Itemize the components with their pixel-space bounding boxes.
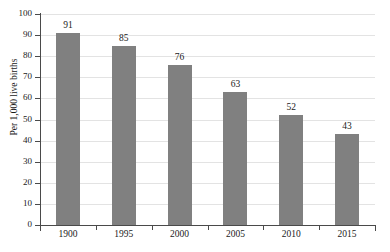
y-axis-tick-label: 10 [2, 199, 32, 208]
x-axis-tick [208, 225, 209, 230]
y-axis-tick-label: 20 [2, 178, 32, 187]
gridline [40, 183, 375, 184]
y-axis-tick [35, 77, 40, 78]
y-axis-tick-label: 40 [2, 136, 32, 145]
x-axis-tick [96, 225, 97, 230]
gridline [40, 162, 375, 163]
bar [168, 65, 192, 225]
x-axis-tick [375, 225, 376, 231]
bar [335, 134, 359, 225]
y-axis-tick [35, 204, 40, 205]
x-axis-tick [152, 225, 153, 230]
y-axis-line [40, 13, 41, 226]
x-axis-tick-label: 2015 [322, 229, 372, 240]
y-axis-tick-label: 0 [2, 220, 32, 229]
x-axis-tick [263, 225, 264, 230]
gridline [40, 204, 375, 205]
y-axis-tick-label: 90 [2, 30, 32, 39]
bar [279, 115, 303, 225]
y-axis-tick-label: 100 [2, 9, 32, 18]
bar-value-label: 63 [215, 79, 255, 89]
x-axis-tick-label: 1900 [43, 229, 93, 240]
gridline [40, 141, 375, 142]
bar-value-label: 91 [48, 20, 88, 30]
bar [112, 46, 136, 225]
x-axis-tick [319, 225, 320, 230]
y-axis-tick-label: 30 [2, 157, 32, 166]
bar-chart: Per 1,000 live births 918576635243 01020… [0, 0, 390, 252]
x-axis-tick-label: 1995 [99, 229, 149, 240]
plot-area: 918576635243 [40, 14, 375, 225]
bar [56, 33, 80, 225]
x-axis-tick-label: 2005 [210, 229, 260, 240]
gridline [40, 77, 375, 78]
y-axis-tick-label: 80 [2, 51, 32, 60]
x-axis-tick-label: 2000 [155, 229, 205, 240]
y-axis-tick [35, 120, 40, 121]
gridline [40, 120, 375, 121]
bar [223, 92, 247, 225]
y-axis-tick [35, 141, 40, 142]
gridline [40, 35, 375, 36]
gridline [40, 14, 375, 15]
y-axis-tick [35, 98, 40, 99]
y-axis-tick [35, 14, 40, 15]
bar-value-label: 43 [327, 121, 367, 131]
bar-value-label: 76 [160, 52, 200, 62]
y-axis-tick-label: 50 [2, 115, 32, 124]
bar-value-label: 52 [271, 102, 311, 112]
gridline [40, 56, 375, 57]
y-axis-tick-label: 60 [2, 93, 32, 102]
gridline [40, 98, 375, 99]
y-axis-tick [35, 35, 40, 36]
y-axis-tick-label: 70 [2, 72, 32, 81]
y-axis-tick [35, 162, 40, 163]
bar-value-label: 85 [104, 33, 144, 43]
y-axis-tick [35, 56, 40, 57]
y-axis-tick [35, 183, 40, 184]
x-axis-tick-label: 2010 [266, 229, 316, 240]
x-axis-tick [40, 225, 41, 231]
